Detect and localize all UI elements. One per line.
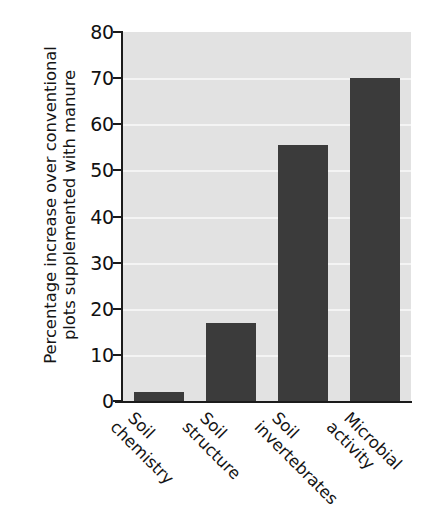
bar (350, 78, 400, 401)
y-axis-tick-mark (113, 262, 122, 264)
y-axis-tick-label: 70 (56, 67, 114, 89)
plot-area (123, 32, 411, 401)
y-axis-tick-label: 40 (56, 206, 114, 228)
y-axis-tick-label: 10 (56, 344, 114, 366)
bar (206, 323, 256, 401)
bar (134, 392, 184, 401)
y-axis-tick-mark (113, 354, 122, 356)
y-axis-tick-mark (113, 77, 122, 79)
y-axis-tick-label: 80 (56, 21, 114, 43)
bar-chart-figure: Percentage increase over conventional pl… (0, 0, 433, 510)
bar (278, 145, 328, 401)
y-axis-tick-label: 30 (56, 252, 114, 274)
y-axis-tick-mark (113, 31, 122, 33)
x-axis-tick-labels: SoilchemistrySoilstructureSoilinvertebra… (0, 401, 433, 510)
y-axis-tick-label: 20 (56, 298, 114, 320)
y-axis-tick-mark (113, 216, 122, 218)
y-axis-tick-label: 50 (56, 159, 114, 181)
y-axis-tick-mark (113, 123, 122, 125)
y-axis-tick-mark (113, 308, 122, 310)
y-axis-tick-label: 60 (56, 113, 114, 135)
bars-group (123, 32, 411, 401)
y-axis-tick-labels: 01020304050607080 (56, 22, 114, 422)
y-axis-tick-mark (113, 169, 122, 171)
